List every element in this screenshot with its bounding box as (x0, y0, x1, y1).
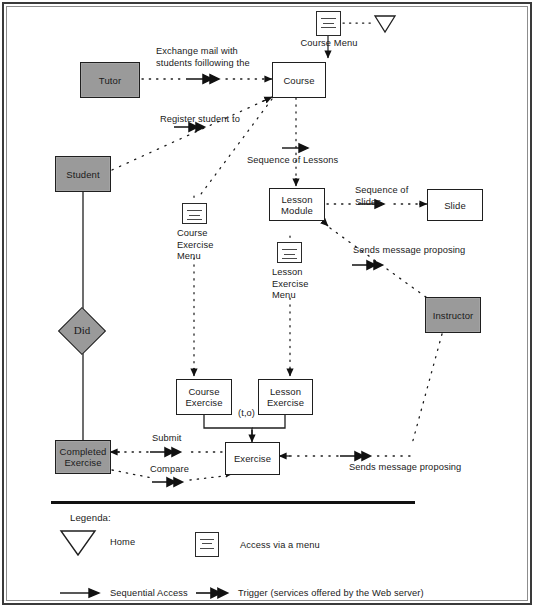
entity-completed-exercise-label: Completed Exercise (60, 446, 107, 468)
page-inner-border (6, 6, 528, 601)
entity-tutor-label: Tutor (99, 75, 121, 86)
diagram-page: Tutor Student Instructor Completed Exerc… (0, 0, 538, 611)
relationship-did-label: Did (65, 324, 99, 336)
entity-student-label: Student (66, 169, 99, 180)
entity-instructor-label: Instructor (433, 310, 474, 321)
